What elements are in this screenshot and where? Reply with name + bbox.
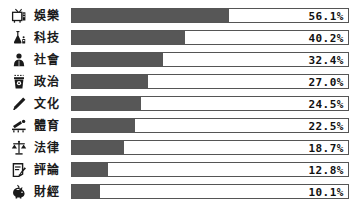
bar-value-label: 56.1% — [308, 9, 344, 24]
bar-fill — [72, 53, 163, 66]
category-label: 體育 — [34, 115, 59, 137]
science-flask-icon — [8, 27, 30, 49]
category-label: 法律 — [34, 137, 59, 159]
bar-value-label: 40.2% — [308, 31, 344, 46]
horizontal-bar-chart: 娛樂56.1%科技40.2%社會32.4%政治27.0%文化24.5%體育22.… — [0, 0, 360, 211]
bar-row: 科技40.2% — [0, 27, 360, 49]
sports-icon — [8, 115, 30, 137]
bar-track: 56.1% — [71, 8, 349, 23]
bar-value-label: 24.5% — [308, 97, 344, 112]
bar-fill — [72, 185, 100, 198]
bar-track: 24.5% — [71, 96, 349, 111]
bar-value-label: 32.4% — [308, 53, 344, 68]
category-label: 評論 — [34, 159, 59, 181]
bar-track: 18.7% — [71, 140, 349, 155]
bar-fill — [72, 9, 229, 22]
bar-row: 政治27.0% — [0, 71, 360, 93]
bar-row: 體育22.5% — [0, 115, 360, 137]
bar-row: 評論12.8% — [0, 159, 360, 181]
bar-track: 27.0% — [71, 74, 349, 89]
bar-value-label: 27.0% — [308, 75, 344, 90]
bar-fill — [72, 97, 141, 110]
bar-fill — [72, 75, 148, 88]
bar-row: 財經10.1% — [0, 181, 360, 203]
bar-track: 10.1% — [71, 184, 349, 199]
ballot-box-icon — [8, 71, 30, 93]
bar-row: 文化24.5% — [0, 93, 360, 115]
category-label: 社會 — [34, 49, 59, 71]
bar-value-label: 12.8% — [308, 163, 344, 178]
bar-track: 40.2% — [71, 30, 349, 45]
category-label: 政治 — [34, 71, 59, 93]
pen-icon — [8, 93, 30, 115]
bar-track: 22.5% — [71, 118, 349, 133]
clipboard-icon — [8, 159, 30, 181]
category-label: 文化 — [34, 93, 59, 115]
bar-fill — [72, 163, 108, 176]
bar-fill — [72, 141, 124, 154]
bar-value-label: 18.7% — [308, 141, 344, 156]
category-label: 娛樂 — [34, 5, 59, 27]
bar-value-label: 10.1% — [308, 185, 344, 200]
piggy-bank-icon — [8, 181, 30, 203]
bar-row: 法律18.7% — [0, 137, 360, 159]
bar-row: 娛樂56.1% — [0, 5, 360, 27]
bar-fill — [72, 119, 135, 132]
tv-icon — [8, 5, 30, 27]
scales-icon — [8, 137, 30, 159]
bar-value-label: 22.5% — [308, 119, 344, 134]
bar-track: 32.4% — [71, 52, 349, 67]
bar-track: 12.8% — [71, 162, 349, 177]
person-icon — [8, 49, 30, 71]
bar-fill — [72, 31, 185, 44]
bar-row: 社會32.4% — [0, 49, 360, 71]
category-label: 財經 — [34, 181, 59, 203]
category-label: 科技 — [34, 27, 59, 49]
